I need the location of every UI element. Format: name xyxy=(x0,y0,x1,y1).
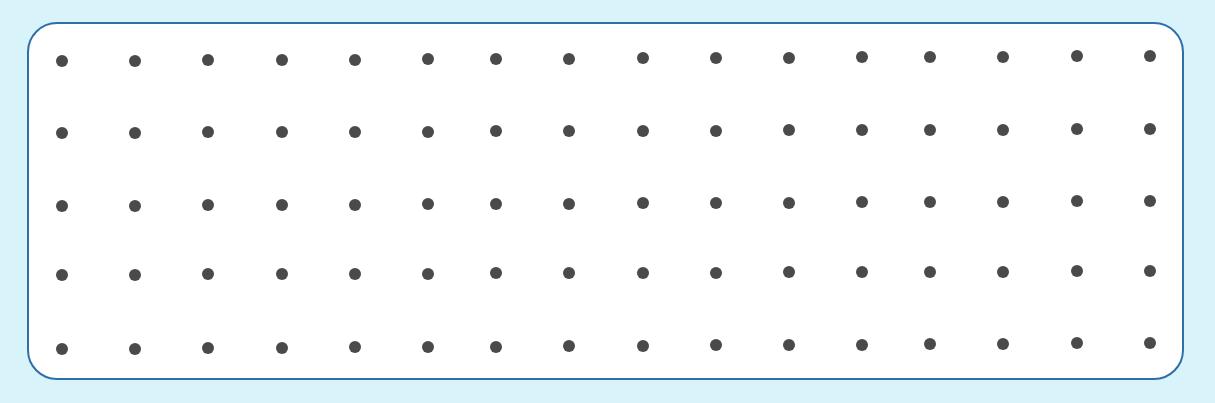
grid-dot xyxy=(349,126,361,138)
grid-dot xyxy=(490,267,502,279)
grid-dot xyxy=(490,125,502,137)
grid-dot xyxy=(56,200,68,212)
grid-dot xyxy=(1144,337,1156,349)
grid-dot xyxy=(422,198,434,210)
grid-dot xyxy=(563,125,575,137)
grid-dot xyxy=(924,338,936,350)
grid-dot xyxy=(276,126,288,138)
grid-dot xyxy=(924,51,936,63)
grid-dot xyxy=(856,196,868,208)
grid-dot xyxy=(856,51,868,63)
grid-dot xyxy=(1144,50,1156,62)
grid-dot xyxy=(1071,50,1083,62)
grid-dot xyxy=(783,197,795,209)
grid-dot xyxy=(349,54,361,66)
grid-dot xyxy=(129,127,141,139)
grid-dot xyxy=(56,127,68,139)
grid-dot xyxy=(563,198,575,210)
grid-dot xyxy=(783,124,795,136)
grid-dot xyxy=(924,124,936,136)
grid-dot xyxy=(710,52,722,64)
grid-dot xyxy=(637,267,649,279)
grid-dot xyxy=(563,340,575,352)
grid-dot xyxy=(276,268,288,280)
grid-dot xyxy=(56,55,68,67)
grid-dot xyxy=(856,124,868,136)
grid-dot xyxy=(924,196,936,208)
grid-dot xyxy=(997,124,1009,136)
grid-dot xyxy=(129,55,141,67)
grid-dot xyxy=(710,197,722,209)
grid-dot xyxy=(1144,195,1156,207)
grid-dot xyxy=(637,340,649,352)
grid-dot xyxy=(637,52,649,64)
grid-dot xyxy=(349,268,361,280)
grid-dot xyxy=(202,342,214,354)
dot-grid-board xyxy=(27,22,1184,380)
grid-dot xyxy=(637,125,649,137)
grid-dot xyxy=(783,52,795,64)
grid-dot xyxy=(422,126,434,138)
grid-dot xyxy=(1144,265,1156,277)
grid-dot xyxy=(924,266,936,278)
grid-dot xyxy=(710,267,722,279)
grid-dot xyxy=(56,269,68,281)
grid-dot xyxy=(783,339,795,351)
grid-dot xyxy=(56,343,68,355)
grid-dot xyxy=(349,341,361,353)
grid-dot xyxy=(490,341,502,353)
grid-dot xyxy=(1071,265,1083,277)
grid-dot xyxy=(202,268,214,280)
grid-dot xyxy=(856,266,868,278)
grid-dot xyxy=(422,53,434,65)
grid-dot xyxy=(997,51,1009,63)
grid-dot xyxy=(276,54,288,66)
grid-dot xyxy=(202,199,214,211)
grid-dot xyxy=(1144,123,1156,135)
grid-dot xyxy=(422,341,434,353)
grid-dot xyxy=(129,200,141,212)
grid-dot xyxy=(710,125,722,137)
grid-dot xyxy=(997,266,1009,278)
grid-dot xyxy=(783,266,795,278)
grid-dot xyxy=(129,343,141,355)
grid-dot xyxy=(997,338,1009,350)
grid-dot xyxy=(202,126,214,138)
grid-dot xyxy=(349,199,361,211)
grid-dot xyxy=(856,339,868,351)
grid-dot xyxy=(563,53,575,65)
grid-dot xyxy=(276,199,288,211)
grid-dot xyxy=(1071,123,1083,135)
grid-dot xyxy=(490,198,502,210)
grid-dot xyxy=(997,196,1009,208)
grid-dot xyxy=(276,342,288,354)
grid-dot xyxy=(1071,337,1083,349)
grid-dot xyxy=(710,339,722,351)
grid-dot xyxy=(129,269,141,281)
grid-dot xyxy=(1071,195,1083,207)
grid-dot xyxy=(490,53,502,65)
grid-dot xyxy=(422,268,434,280)
grid-dot xyxy=(202,54,214,66)
grid-dot xyxy=(637,197,649,209)
grid-dot xyxy=(563,267,575,279)
